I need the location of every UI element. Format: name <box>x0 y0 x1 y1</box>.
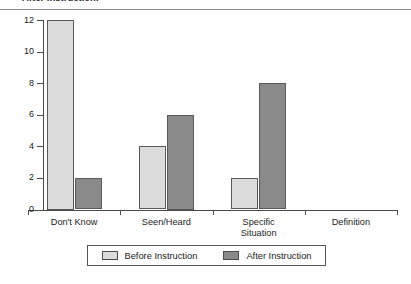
legend-entry: After Instruction <box>223 251 311 261</box>
bar <box>231 178 258 210</box>
y-axis-tick-label-text: 8 <box>8 79 34 88</box>
bar <box>259 83 286 209</box>
bar <box>167 115 194 210</box>
x-axis-category-label: Seen/Heard <box>120 217 212 228</box>
legend-entry: Before Instruction <box>102 251 198 261</box>
x-axis-tick <box>28 210 29 215</box>
y-axis-tick <box>37 20 43 21</box>
x-axis-category-label: Don't Know <box>28 217 120 228</box>
y-axis-tick <box>37 115 43 116</box>
y-axis-tick <box>37 210 43 211</box>
x-axis-tick <box>305 210 306 215</box>
bar <box>139 146 166 209</box>
y-axis-tick-label-text: 6 <box>8 110 34 119</box>
x-axis-tick <box>120 210 121 215</box>
y-axis-tick-label-text: 0 <box>8 205 34 214</box>
bar <box>75 178 102 210</box>
y-axis-tick-label-text: 12 <box>8 16 34 25</box>
y-axis-tick <box>37 52 43 53</box>
x-axis-category-label-line: Situation <box>213 228 305 239</box>
bar <box>47 20 74 210</box>
y-axis-tick <box>37 178 43 179</box>
caption-clip: After Instruction. <box>0 0 411 7</box>
y-axis-tick-label: 12 <box>0 16 34 25</box>
chart-legend: Before InstructionAfter Instruction <box>87 245 326 266</box>
x-axis-category-label-line: Don't Know <box>28 217 120 228</box>
y-axis-tick-label: 2 <box>0 173 34 182</box>
y-axis-tick-label: 10 <box>0 47 34 56</box>
y-axis-tick-label-text: 10 <box>8 47 34 56</box>
legend-label: After Instruction <box>246 251 311 261</box>
figure-caption: After Instruction. <box>22 0 99 3</box>
x-axis-category-label: SpecificSituation <box>213 217 305 239</box>
y-axis-tick <box>37 83 43 84</box>
legend-label: Before Instruction <box>125 251 198 261</box>
x-axis-category-label-line: Definition <box>305 217 397 228</box>
x-axis-tick <box>397 210 398 215</box>
legend-swatch <box>223 251 239 260</box>
x-axis-category-label-line: Seen/Heard <box>120 217 212 228</box>
y-axis-tick-label-text: 4 <box>8 142 34 151</box>
y-axis-line <box>43 20 44 210</box>
x-axis-category-label: Definition <box>305 217 397 228</box>
bar-chart: 024681012 Don't KnowSeen/HeardSpecificSi… <box>0 10 411 284</box>
y-axis-tick-label: 6 <box>0 110 34 119</box>
x-axis-category-label-line: Specific <box>213 217 305 228</box>
y-axis-tick-label-text: 2 <box>8 173 34 182</box>
y-axis-tick-label: 8 <box>0 79 34 88</box>
y-axis-tick <box>37 146 43 147</box>
x-axis-tick <box>213 210 214 215</box>
legend-swatch <box>102 251 118 260</box>
y-axis-tick-label: 4 <box>0 142 34 151</box>
